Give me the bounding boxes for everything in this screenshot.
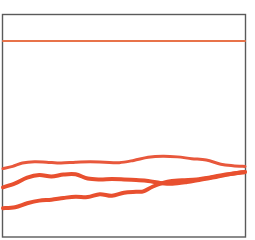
plot-frame-border [3, 15, 246, 238]
line-chart-plot [0, 0, 255, 240]
chart-container [0, 0, 255, 240]
